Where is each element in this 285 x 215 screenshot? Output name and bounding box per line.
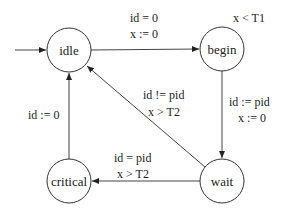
state-critical: critical	[47, 159, 91, 203]
state-begin-label: begin	[208, 42, 237, 57]
label-idle-begin-guard: id = 0	[130, 11, 158, 25]
label-wait-idle-guard: id != pid	[143, 88, 184, 102]
label-wait-critical-update: x > T2	[117, 167, 149, 181]
state-critical-label: critical	[51, 174, 87, 189]
state-wait-label: wait	[211, 174, 234, 189]
label-idle-begin-update: x := 0	[130, 27, 158, 41]
label-begin-wait-guard: id := pid	[229, 95, 270, 109]
label-begin-invariant: x < T1	[233, 11, 265, 25]
label-begin-wait-update: x := 0	[238, 111, 266, 125]
state-wait: wait	[200, 159, 244, 203]
label-wait-critical-guard: id = pid	[114, 151, 151, 165]
state-begin: begin	[200, 27, 244, 71]
label-critical-idle-update: id := 0	[28, 108, 59, 122]
edge-idle-begin	[91, 49, 199, 50]
state-idle: idle	[47, 28, 91, 72]
state-diagram: idle begin wait critical id = 0 x := 0 x…	[0, 0, 285, 215]
state-idle-label: idle	[59, 43, 79, 58]
label-wait-idle-update: x > T2	[148, 105, 180, 119]
